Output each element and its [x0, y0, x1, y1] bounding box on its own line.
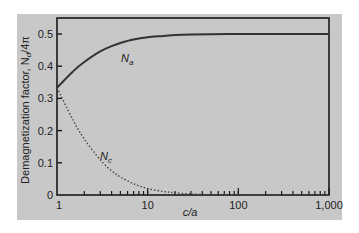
- x-tick-label: 1: [56, 199, 62, 211]
- plot-frame: [57, 18, 329, 195]
- x-tick-label: 100: [229, 199, 247, 211]
- y-tick-label: 0.3: [38, 92, 53, 104]
- y-tick-label: 0.4: [38, 60, 53, 72]
- y-tick-label: 0.5: [38, 28, 53, 40]
- axis-ticks: [57, 34, 329, 195]
- na-label: Na: [121, 52, 134, 67]
- y-tick-label: 0.2: [38, 125, 53, 137]
- x-axis-title: c/a: [183, 206, 198, 218]
- axis-tick-labels: 00.10.20.30.40.51101001,000: [38, 28, 343, 211]
- demagnetization-chart: 00.10.20.30.40.51101001,000 Na Nc c/a De…: [0, 0, 359, 233]
- na-curve: [57, 34, 329, 88]
- y-axis-title: Demagnetization factor, Nd/4π: [19, 36, 33, 184]
- x-tick-label: 10: [142, 199, 154, 211]
- y-tick-label: 0: [47, 189, 53, 201]
- nc-curve: [57, 88, 329, 195]
- nc-label: Nc: [100, 150, 112, 165]
- y-tick-label: 0.1: [38, 157, 53, 169]
- x-tick-label: 1,000: [315, 199, 343, 211]
